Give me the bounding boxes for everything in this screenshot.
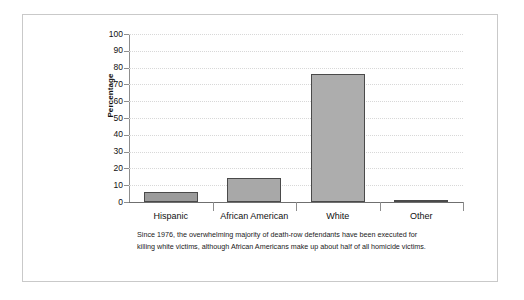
bar-chart: Percentage 0102030405060708090100 Hispan…: [23, 15, 499, 215]
gridline: [129, 51, 463, 52]
x-tick-label: White: [296, 211, 380, 221]
figure-caption: Since 1976, the overwhelming majority of…: [137, 229, 427, 252]
figure-frame: Percentage 0102030405060708090100 Hispan…: [22, 14, 498, 282]
category-separator: [380, 202, 381, 211]
y-tick-mark: [124, 101, 129, 102]
y-tick-label: 10: [93, 181, 123, 190]
y-tick-mark: [124, 168, 129, 169]
y-tick-label: 40: [93, 130, 123, 139]
y-tick-mark: [124, 185, 129, 186]
bar-african-american: [227, 178, 281, 202]
y-tick-mark: [124, 118, 129, 119]
gridline: [129, 101, 463, 102]
y-tick-label: 30: [93, 147, 123, 156]
gridline: [129, 84, 463, 85]
plot-area: 0102030405060708090100 HispanicAfrican A…: [129, 34, 463, 202]
y-tick-label: 60: [93, 97, 123, 106]
y-tick-mark: [124, 34, 129, 35]
category-separator: [463, 202, 464, 211]
x-tick-label: African American: [213, 211, 297, 221]
x-tick-label: Hispanic: [129, 211, 213, 221]
y-tick-mark: [124, 51, 129, 52]
gridline: [129, 168, 463, 169]
bar-other: [394, 200, 448, 202]
y-tick-mark: [124, 152, 129, 153]
gridline: [129, 34, 463, 35]
y-tick-label: 50: [93, 114, 123, 123]
x-tick-label: Other: [380, 211, 464, 221]
y-tick-mark: [124, 84, 129, 85]
y-tick-mark: [124, 68, 129, 69]
gridline: [129, 118, 463, 119]
y-tick-label: 100: [93, 30, 123, 39]
gridline: [129, 68, 463, 69]
y-tick-label: 20: [93, 164, 123, 173]
bar-white: [311, 74, 365, 202]
bar-hispanic: [144, 192, 198, 202]
y-tick-label: 0: [93, 198, 123, 207]
y-tick-mark: [124, 135, 129, 136]
y-tick-label: 70: [93, 80, 123, 89]
category-separator: [213, 202, 214, 211]
gridline: [129, 152, 463, 153]
category-separator: [296, 202, 297, 211]
y-tick-mark: [124, 202, 129, 203]
gridline: [129, 185, 463, 186]
y-tick-label: 90: [93, 46, 123, 55]
gridline: [129, 135, 463, 136]
y-tick-label: 80: [93, 63, 123, 72]
